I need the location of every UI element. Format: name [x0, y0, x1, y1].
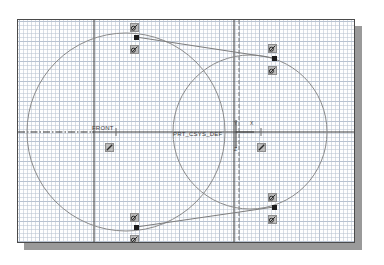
tangent-constraint-2-icon[interactable]: [130, 45, 139, 54]
tangent-constraint-6-icon[interactable]: [130, 235, 139, 243]
graphics-window[interactable]: FRONT PRT_CSYS_DEF Y X Z: [17, 19, 355, 243]
label-axis-z: Z: [234, 146, 237, 152]
tangent-constraint-3-icon[interactable]: [268, 44, 277, 53]
point-bottom-left[interactable]: [134, 225, 139, 230]
tangent-constraint-5-icon[interactable]: [130, 213, 139, 222]
tangent-constraint-4-icon[interactable]: [268, 66, 277, 75]
label-datum-front: FRONT: [92, 125, 114, 131]
tangent-constraint-8-icon[interactable]: [268, 215, 277, 224]
equal-constraint-right-icon[interactable]: [257, 143, 266, 152]
point-top-left[interactable]: [134, 35, 139, 40]
point-top-right[interactable]: [272, 56, 277, 61]
top-tangent-line[interactable]: [136, 37, 274, 58]
sketch-view-root: FRONT PRT_CSYS_DEF Y X Z: [0, 0, 384, 265]
tangent-constraint-1-icon[interactable]: [130, 23, 139, 32]
label-axis-x: X: [250, 120, 254, 126]
equal-constraint-left-icon[interactable]: [105, 143, 114, 152]
label-axis-y: Y: [234, 120, 238, 126]
label-prt-csys-def: PRT_CSYS_DEF: [173, 131, 222, 137]
bottom-tangent-line[interactable]: [136, 207, 274, 227]
point-bottom-right[interactable]: [272, 205, 277, 210]
tangent-constraint-7-icon[interactable]: [268, 193, 277, 202]
